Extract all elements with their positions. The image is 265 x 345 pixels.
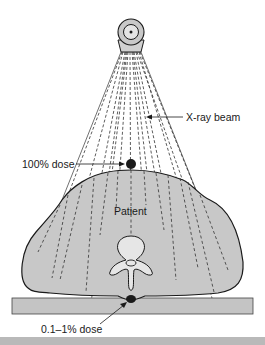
arrow-head-icon	[119, 162, 125, 167]
bottom-band	[0, 337, 265, 345]
patient-label: Patient	[114, 205, 147, 217]
arrow-head-icon	[146, 115, 152, 120]
x-ray-tube-icon	[118, 19, 144, 52]
entrance-dose-label: 100% dose	[22, 158, 75, 170]
radiation-dose-diagram: X-ray beam 100% dose Patient 0.1–1% dose	[0, 0, 265, 345]
x-ray-beam-label: X-ray beam	[186, 111, 241, 123]
exit-dose-label: 0.1–1% dose	[41, 323, 102, 335]
entrance-dose-point	[126, 159, 136, 169]
exit-dose-point	[126, 295, 136, 303]
